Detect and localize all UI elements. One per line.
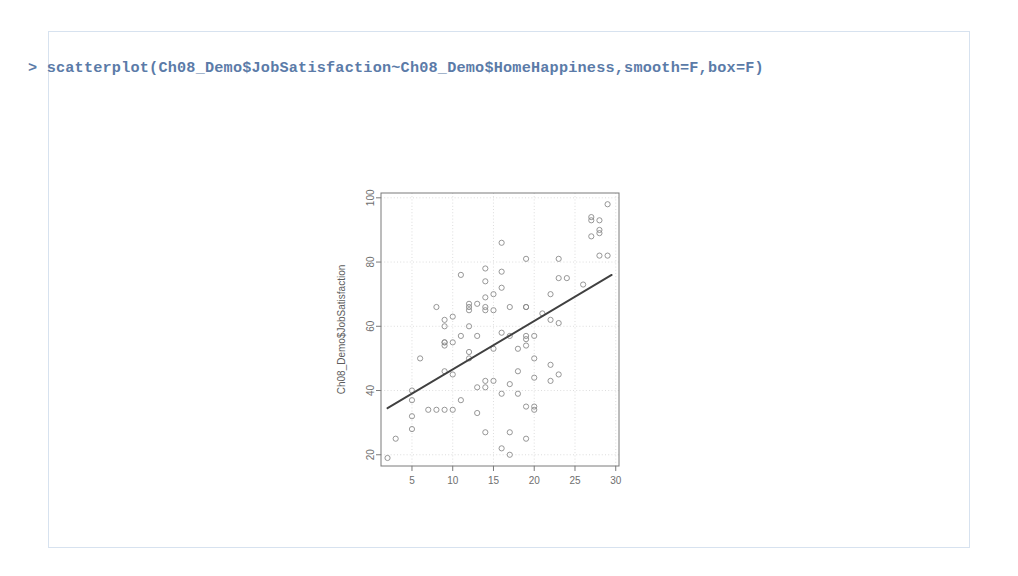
r-console-command-line: > scatterplot(Ch08_Demo$JobSatisfaction~… <box>28 59 764 77</box>
data-point <box>556 276 561 281</box>
x-tick-label: 5 <box>409 475 415 486</box>
y-axis-title: Ch08_Demo$JobSatisfaction <box>336 265 347 395</box>
data-point <box>515 391 520 396</box>
y-tick-label: 80 <box>366 256 377 268</box>
data-point <box>556 372 561 377</box>
x-tick-label: 10 <box>447 475 459 486</box>
data-point <box>466 308 471 313</box>
data-point <box>548 378 553 383</box>
data-point <box>426 407 431 412</box>
scatterplot-svg: 51015202530 20406080100 Ch08_Demo$HomeHa… <box>282 140 652 495</box>
data-point <box>442 407 447 412</box>
scatter-points <box>385 202 610 461</box>
data-point <box>483 308 488 313</box>
x-axis-tick-labels: 51015202530 <box>409 475 622 486</box>
data-point <box>507 304 512 309</box>
data-point <box>556 320 561 325</box>
data-point <box>499 269 504 274</box>
data-point <box>589 218 594 223</box>
y-tick-label: 40 <box>366 385 377 397</box>
y-tick-label: 20 <box>366 449 377 461</box>
data-point <box>556 256 561 261</box>
data-point <box>466 349 471 354</box>
data-point <box>507 382 512 387</box>
plot-gridlines <box>381 193 619 466</box>
regression-line-segment <box>388 275 612 408</box>
data-point <box>434 304 439 309</box>
data-point <box>507 430 512 435</box>
plot-frame-box <box>381 193 619 466</box>
x-tick-label: 15 <box>488 475 500 486</box>
scatterplot-figure: 51015202530 20406080100 Ch08_Demo$HomeHa… <box>282 140 652 495</box>
data-point <box>442 317 447 322</box>
data-point <box>483 430 488 435</box>
data-point <box>483 295 488 300</box>
r-prompt-symbol: > <box>28 59 47 77</box>
y-tick-label: 60 <box>366 320 377 332</box>
data-point <box>523 304 528 309</box>
data-point <box>442 343 447 348</box>
data-point <box>589 234 594 239</box>
data-point <box>515 346 520 351</box>
data-point <box>581 282 586 287</box>
data-point <box>548 362 553 367</box>
y-tick-label: 100 <box>366 189 377 206</box>
data-point <box>515 369 520 374</box>
data-point <box>475 333 480 338</box>
data-point <box>523 343 528 348</box>
data-point <box>475 410 480 415</box>
data-point <box>499 391 504 396</box>
x-tick-label: 30 <box>610 475 622 486</box>
data-point <box>458 272 463 277</box>
data-point <box>475 301 480 306</box>
data-point <box>475 385 480 390</box>
r-command-text: scatterplot(Ch08_Demo$JobSatisfaction~Ch… <box>47 59 764 77</box>
data-point <box>548 317 553 322</box>
data-point <box>385 455 390 460</box>
data-point <box>499 240 504 245</box>
data-point <box>499 330 504 335</box>
data-point <box>597 231 602 236</box>
data-point <box>523 256 528 261</box>
data-point <box>483 266 488 271</box>
data-point <box>393 436 398 441</box>
data-point <box>523 404 528 409</box>
data-point <box>597 218 602 223</box>
data-point <box>499 285 504 290</box>
x-tick-label: 25 <box>569 475 581 486</box>
data-point <box>564 276 569 281</box>
x-tick-label: 20 <box>529 475 541 486</box>
data-point <box>548 292 553 297</box>
data-point <box>523 337 528 342</box>
data-point <box>418 356 423 361</box>
data-point <box>597 253 602 258</box>
data-point <box>483 378 488 383</box>
data-point <box>458 398 463 403</box>
data-point <box>483 385 488 390</box>
data-point <box>605 253 610 258</box>
y-axis-tick-labels: 20406080100 <box>366 189 377 460</box>
regression-line <box>388 275 612 408</box>
data-point <box>458 333 463 338</box>
data-point <box>499 446 504 451</box>
data-point <box>483 279 488 284</box>
plot-box-border <box>381 193 619 466</box>
data-point <box>605 202 610 207</box>
data-point <box>434 407 439 412</box>
data-point <box>523 436 528 441</box>
